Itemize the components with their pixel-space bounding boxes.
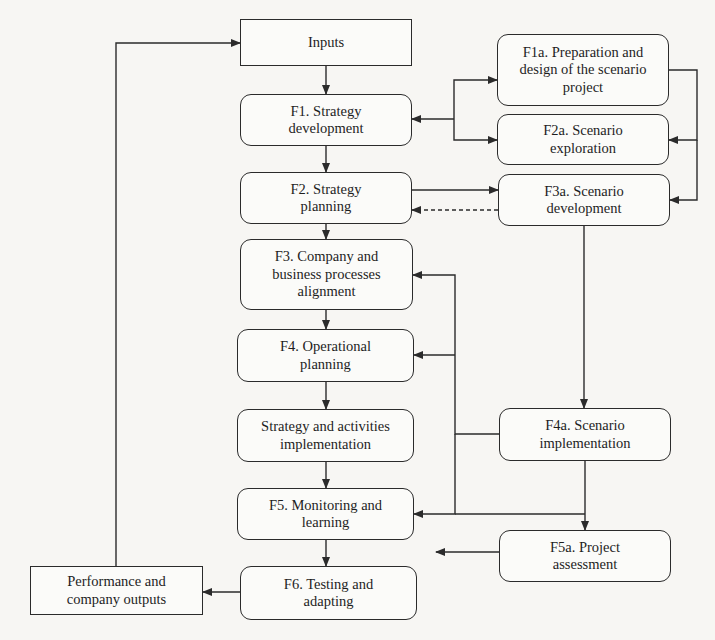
box-inputs: Inputs: [240, 19, 412, 66]
box-sai: Strategy and activities implementation: [237, 409, 414, 462]
box-f5a-label: F5a. Project assessment: [550, 539, 620, 574]
box-f5: F5. Monitoring and learning: [237, 488, 414, 540]
box-f4: F4. Operational planning: [237, 329, 414, 382]
box-f2a: F2a. Scenario exploration: [497, 114, 669, 165]
box-f6-label: F6. Testing and adapting: [284, 576, 373, 611]
flowchart-canvas: Inputs F1. Strategy development F2. Stra…: [0, 0, 715, 640]
arrow-f1a-to-f3a: [670, 140, 697, 200]
box-f1-label: F1. Strategy development: [289, 103, 364, 138]
box-perf: Performance and company outputs: [30, 566, 203, 615]
box-f5a: F5a. Project assessment: [499, 530, 671, 582]
arrow-f1a-to-f2a: [669, 70, 697, 140]
box-f6: F6. Testing and adapting: [240, 566, 417, 620]
box-f3-label: F3. Company and business processes align…: [272, 248, 380, 301]
box-f4a: F4a. Scenario implementation: [499, 408, 671, 461]
box-f3a-label: F3a. Scenario development: [544, 183, 624, 218]
box-inputs-label: Inputs: [308, 34, 344, 52]
box-f4a-label: F4a. Scenario implementation: [539, 417, 630, 452]
box-f2-label: F2. Strategy planning: [291, 181, 362, 216]
box-f2: F2. Strategy planning: [240, 172, 412, 224]
box-f2a-label: F2a. Scenario exploration: [543, 122, 623, 157]
box-f1: F1. Strategy development: [240, 94, 412, 146]
box-sai-label: Strategy and activities implementation: [261, 418, 390, 453]
box-f4-label: F4. Operational planning: [280, 338, 371, 373]
box-f5-label: F5. Monitoring and learning: [269, 497, 382, 532]
arrow-hub-to-f1a: [454, 80, 497, 119]
arrow-hub-to-f2a: [454, 119, 497, 140]
box-perf-label: Performance and company outputs: [67, 573, 166, 608]
arrow-perf-to-inputs: [116, 43, 240, 566]
box-f1a: F1a. Preparation and design of the scena…: [497, 34, 669, 106]
box-f3: F3. Company and business processes align…: [240, 239, 413, 310]
box-f1a-label: F1a. Preparation and design of the scena…: [520, 44, 647, 97]
arrow-f4a-to-f5: [414, 434, 455, 514]
box-f3a: F3a. Scenario development: [498, 174, 670, 226]
